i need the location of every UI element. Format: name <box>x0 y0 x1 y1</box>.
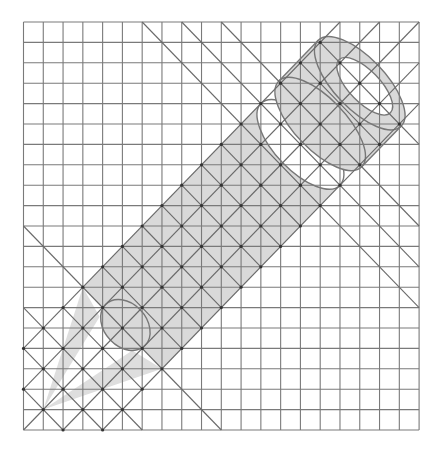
lattice-node <box>180 347 183 350</box>
lattice-node <box>160 326 163 329</box>
lattice-node <box>279 163 282 166</box>
lattice-node <box>338 102 341 105</box>
lattice-node <box>121 326 124 329</box>
lattice-node <box>220 184 223 187</box>
lattice-node <box>358 82 361 85</box>
lattice-node <box>299 184 302 187</box>
lattice-node <box>220 265 223 268</box>
lattice-node <box>141 265 144 268</box>
lattice-node <box>299 102 302 105</box>
pencil-grid-diagram: Pencil drawn on an isometric helper grid <box>0 0 442 451</box>
lattice-node <box>160 204 163 207</box>
lattice-node <box>101 388 104 391</box>
lattice-node <box>259 224 262 227</box>
lattice-node <box>239 204 242 207</box>
lattice-node <box>259 265 262 268</box>
lattice-node <box>338 143 341 146</box>
lattice-node <box>61 306 64 309</box>
lattice-node <box>319 122 322 125</box>
lattice-node <box>180 306 183 309</box>
lattice-node <box>160 286 163 289</box>
lattice-node <box>299 143 302 146</box>
lattice-node <box>121 408 124 411</box>
lattice-node <box>319 163 322 166</box>
lattice-node <box>160 245 163 248</box>
lattice-node <box>259 143 262 146</box>
lattice-node <box>259 102 262 105</box>
lattice-node <box>101 306 104 309</box>
lattice-node <box>279 245 282 248</box>
lattice-node <box>279 82 282 85</box>
lattice-node <box>81 326 84 329</box>
lattice-node <box>200 163 203 166</box>
lattice-node <box>319 82 322 85</box>
lattice-node <box>299 61 302 64</box>
lattice-node <box>220 306 223 309</box>
lattice-node <box>22 388 25 391</box>
lattice-node <box>220 143 223 146</box>
lattice-node <box>239 286 242 289</box>
lattice-node <box>141 224 144 227</box>
lattice-node <box>200 204 203 207</box>
lattice-node <box>180 224 183 227</box>
lattice-node <box>81 408 84 411</box>
lattice-node <box>141 306 144 309</box>
lattice-node <box>101 265 104 268</box>
lattice-node <box>398 122 401 125</box>
lattice-node <box>220 224 223 227</box>
diagram-canvas: Pencil drawn on an isometric helper grid <box>0 0 442 451</box>
lattice-node <box>378 102 381 105</box>
lattice-node <box>338 61 341 64</box>
lattice-node <box>319 204 322 207</box>
lattice-node <box>141 347 144 350</box>
lattice-node <box>200 326 203 329</box>
lattice-node <box>239 163 242 166</box>
lattice-node <box>279 204 282 207</box>
lattice-node <box>358 163 361 166</box>
lattice-node <box>259 184 262 187</box>
lattice-node <box>180 184 183 187</box>
lattice-node <box>101 347 104 350</box>
lattice-node <box>319 41 322 44</box>
lattice-node <box>338 184 341 187</box>
lattice-node <box>121 245 124 248</box>
lattice-node <box>200 286 203 289</box>
lattice-node <box>42 408 45 411</box>
lattice-node <box>160 367 163 370</box>
lattice-node <box>101 428 104 431</box>
lattice-node <box>239 245 242 248</box>
lattice-node <box>42 326 45 329</box>
lattice-node <box>279 122 282 125</box>
lattice-node <box>61 428 64 431</box>
lattice-node <box>121 286 124 289</box>
lattice-node <box>121 367 124 370</box>
lattice-node <box>299 224 302 227</box>
lattice-node <box>180 265 183 268</box>
lattice-node <box>358 122 361 125</box>
lattice-node <box>42 367 45 370</box>
lattice-node <box>200 245 203 248</box>
lattice-node <box>378 143 381 146</box>
lattice-node <box>61 388 64 391</box>
lattice-node <box>81 367 84 370</box>
lattice-node <box>61 347 64 350</box>
lattice-node <box>239 122 242 125</box>
lattice-node <box>81 286 84 289</box>
lattice-node <box>141 388 144 391</box>
lattice-node <box>22 347 25 350</box>
